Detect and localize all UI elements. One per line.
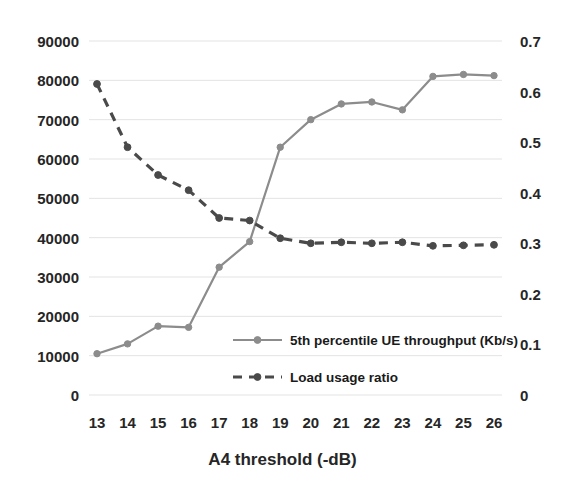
y-axis-left-tick-label: 40000 [37,231,79,246]
data-point [124,144,131,151]
series-line-1 [97,84,494,246]
data-point [399,239,406,246]
data-point [491,72,497,78]
x-axis-title: A4 threshold (-dB) [0,450,565,470]
legend-marker-1 [254,374,261,381]
legend-label-load-usage: Load usage ratio [290,371,398,385]
data-point [308,116,314,122]
y-axis-right-tick-label: 0.6 [520,85,541,100]
series-group [94,71,498,357]
data-point [338,101,344,107]
data-point [307,240,314,247]
data-point [491,241,498,248]
y-axis-left-tick-label: 10000 [37,349,79,364]
y-axis-left-tick-label: 70000 [37,113,79,128]
data-point [94,81,101,88]
legend-marker-0 [254,337,261,344]
data-point [277,144,283,150]
data-point [246,238,252,244]
data-point [369,99,375,105]
legend-label-throughput: 5th percentile UE throughput (Kb/s) [290,334,518,348]
data-point [216,215,223,222]
data-point [368,240,375,247]
legend-marker-group [233,337,282,381]
y-axis-left-tick-label: 30000 [37,270,79,285]
data-point [155,172,162,179]
y-axis-right-tick-label: 0.1 [520,337,541,352]
y-axis-right-tick-label: 0.7 [520,34,541,49]
data-point [246,217,253,224]
y-axis-right-tick-label: 0.4 [520,186,541,201]
y-axis-right-tick-label: 0.3 [520,236,541,251]
data-point [216,264,222,270]
data-point [277,235,284,242]
y-axis-left-tick-label: 60000 [37,152,79,167]
series-line-0 [97,74,494,353]
y-axis-left-tick-label: 50000 [37,191,79,206]
x-axis-tick-label: 26 [474,415,514,430]
data-point [338,239,345,246]
data-point [460,71,466,77]
chart-container: 0100002000030000400005000060000700008000… [0,0,565,490]
data-point [155,323,161,329]
data-point [185,324,191,330]
y-axis-right-tick-label: 0.5 [520,135,541,150]
data-point [185,187,192,194]
data-point [430,242,437,249]
y-axis-left-tick-label: 90000 [37,34,79,49]
data-point [124,341,130,347]
y-axis-right-tick-label: 0.2 [520,287,541,302]
y-axis-right-tick-label: 0 [520,388,528,403]
data-point [399,107,405,113]
data-point [430,73,436,79]
y-axis-left-tick-label: 80000 [37,73,79,88]
data-point [94,351,100,357]
y-axis-left-tick-label: 20000 [37,309,79,324]
data-point [460,242,467,249]
y-axis-left-tick-label: 0 [71,388,79,403]
